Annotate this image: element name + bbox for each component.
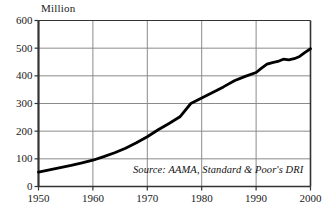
x-tick-label: 1980 (182, 193, 222, 204)
y-tick-label: 400 (3, 70, 33, 81)
x-tick-label: 1970 (127, 193, 167, 204)
data-series (39, 49, 311, 172)
source-attribution: Source: AAMA, Standard & Poor's DRI (133, 164, 303, 175)
y-tick-label: 500 (3, 43, 33, 54)
x-tick-label: 1960 (73, 193, 113, 204)
y-tick-label: 100 (3, 153, 33, 164)
plot-area (0, 0, 330, 214)
chart-container: Million 0100200300400500600 195019601970… (0, 0, 330, 214)
x-tick-label: 1990 (236, 193, 276, 204)
x-tick-label: 1950 (19, 193, 59, 204)
series-line (39, 49, 311, 172)
y-tick-label: 0 (3, 181, 33, 192)
y-tick-label: 300 (3, 98, 33, 109)
y-tick-label: 200 (3, 126, 33, 137)
y-tick-label: 600 (3, 15, 33, 26)
x-tick-label: 2000 (291, 193, 330, 204)
gridlines (39, 21, 311, 187)
